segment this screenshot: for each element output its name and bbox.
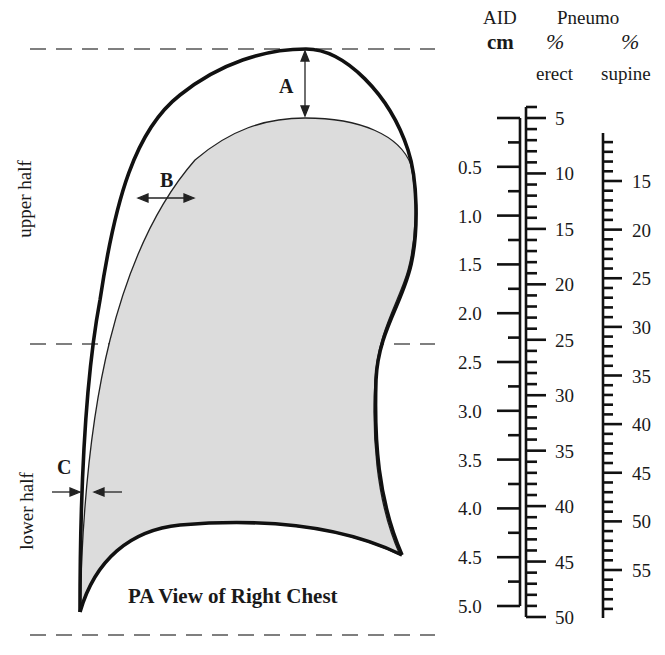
erect-tick-label: 30 <box>555 385 574 406</box>
aid-tick-label: 0.5 <box>458 157 482 178</box>
label-a: A <box>279 75 294 97</box>
supine-percent-scale <box>603 133 622 618</box>
supine-tick-label: 30 <box>632 317 651 338</box>
erect-unit-percent: % <box>546 31 564 53</box>
erect-percent-scale <box>526 107 546 617</box>
aid-tick-label: 4.5 <box>458 547 482 568</box>
collapsed-lung-shape <box>80 118 415 610</box>
diagram-title: PA View of Right Chest <box>128 584 338 608</box>
aid-tick-label: 4.0 <box>458 498 482 519</box>
aid-tick-label: 2.0 <box>458 303 482 324</box>
supine-label: supine <box>601 64 651 83</box>
erect-tick-label: 35 <box>555 441 574 462</box>
measurement-a <box>301 51 309 116</box>
supine-tick-label: 35 <box>632 366 651 387</box>
aid-tick-label: 1.0 <box>458 206 482 227</box>
pneumo-header: Pneumo <box>557 8 619 27</box>
erect-tick-label: 45 <box>555 552 574 573</box>
supine-tick-label: 15 <box>632 171 651 192</box>
erect-tick-label: 10 <box>555 163 574 184</box>
supine-tick-label: 25 <box>632 268 651 289</box>
supine-tick-label: 45 <box>632 463 651 484</box>
supine-tick-label: 50 <box>632 511 651 532</box>
erect-label: erect <box>536 64 573 83</box>
upper-half-label: upper half <box>14 160 36 238</box>
lower-half-label: lower half <box>16 472 38 550</box>
erect-tick-label: 5 <box>555 108 565 129</box>
erect-tick-label: 20 <box>555 274 574 295</box>
supine-tick-label: 20 <box>632 220 651 241</box>
erect-tick-label: 25 <box>555 330 574 351</box>
erect-tick-label: 15 <box>555 219 574 240</box>
supine-tick-label: 40 <box>632 414 651 435</box>
aid-tick-label: 3.0 <box>458 401 482 422</box>
aid-cm-scale <box>497 118 520 606</box>
aid-tick-label: 1.5 <box>458 254 482 275</box>
aid-unit-cm: cm <box>487 32 514 53</box>
pneumothorax-diagram: A B C PA View of Right Chest 0.51.01.52.… <box>0 0 665 655</box>
erect-tick-label: 50 <box>555 607 574 628</box>
supine-tick-label: 55 <box>632 560 651 581</box>
aid-tick-label: 5.0 <box>458 596 482 617</box>
label-c: C <box>57 456 71 478</box>
erect-tick-label: 40 <box>555 496 574 517</box>
label-b: B <box>160 169 173 191</box>
aid-tick-label: 2.5 <box>458 352 482 373</box>
aid-tick-label: 3.5 <box>458 450 482 471</box>
aid-header: AID <box>483 8 517 27</box>
supine-unit-percent: % <box>621 31 639 53</box>
